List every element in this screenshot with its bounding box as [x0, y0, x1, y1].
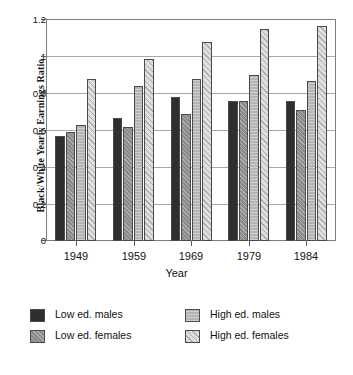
- x-tick-mark: [249, 241, 250, 246]
- bar-low-ed-males-1969: [171, 97, 181, 241]
- legend-label: High ed. females: [210, 329, 289, 341]
- bars-container: [47, 20, 335, 241]
- x-tick-label: 1969: [161, 250, 221, 262]
- bar-low-ed-males-1959: [113, 118, 123, 241]
- x-tick-mark: [134, 241, 135, 246]
- bar-low-ed-males-1979: [228, 101, 238, 241]
- legend-swatch-high-ed-males: [185, 309, 200, 322]
- y-axis-ticks: 1.2 1 0.8 0.6 0.4 0.2 0: [0, 19, 46, 241]
- bar-high-ed-females-1949: [87, 79, 97, 241]
- bar-high-ed-females-1984: [317, 26, 327, 241]
- bar-high-ed-males-1979: [249, 75, 259, 241]
- bar-high-ed-males-1949: [76, 125, 86, 241]
- x-tick-label: 1959: [104, 250, 164, 262]
- bar-high-ed-females-1969: [202, 42, 212, 241]
- legend-swatch-high-ed-females: [185, 330, 200, 343]
- bar-low-ed-females-1979: [239, 101, 249, 241]
- bar-low-ed-females-1984: [296, 110, 306, 241]
- x-tick-label: 1949: [46, 250, 106, 262]
- bar-low-ed-females-1949: [66, 132, 76, 241]
- legend-label: High ed. males: [210, 308, 280, 320]
- bar-high-ed-males-1969: [192, 79, 202, 241]
- x-tick-label: 1984: [276, 250, 336, 262]
- bar-high-ed-females-1979: [260, 29, 270, 241]
- bar-high-ed-males-1959: [134, 86, 144, 241]
- legend-swatch-low-ed-males: [30, 309, 45, 322]
- x-axis-title: Year: [0, 267, 353, 279]
- chart-legend: Low ed. males Low ed. females High ed. m…: [30, 307, 330, 357]
- bar-low-ed-males-1984: [286, 101, 296, 241]
- x-tick-label: 1979: [219, 250, 279, 262]
- bar-low-ed-males-1949: [55, 136, 65, 241]
- x-tick-mark: [191, 241, 192, 246]
- bar-chart: Black/White Yearly Earnings Ratio 1.2 1 …: [0, 0, 353, 375]
- bar-low-ed-females-1969: [181, 114, 191, 241]
- legend-label: Low ed. females: [55, 329, 131, 341]
- legend-label: Low ed. males: [55, 308, 123, 320]
- legend-swatch-low-ed-females: [30, 330, 45, 343]
- bar-low-ed-females-1959: [123, 127, 133, 241]
- x-tick-mark: [76, 241, 77, 246]
- bar-high-ed-males-1984: [307, 81, 317, 241]
- bar-high-ed-females-1959: [144, 59, 154, 241]
- x-tick-mark: [306, 241, 307, 246]
